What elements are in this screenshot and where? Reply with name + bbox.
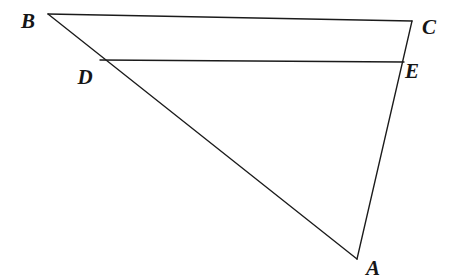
segment-de [100,60,404,62]
vertex-label-e: E [405,61,419,82]
vertex-label-b: B [21,11,35,32]
vertex-label-c: C [422,17,436,38]
figure-canvas [0,0,460,279]
vertex-label-d: D [77,67,92,88]
segment-ca [357,21,412,259]
geometry-figure: B C D E A [0,0,460,279]
segment-bc [48,14,412,21]
vertex-label-a: A [366,258,380,279]
segment-ba [48,14,357,259]
